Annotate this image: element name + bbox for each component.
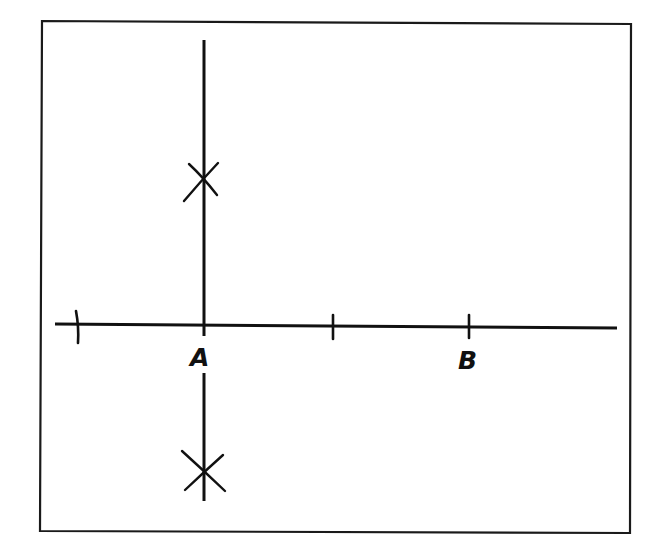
point-b-label: B [458, 346, 477, 375]
horizontal-line [55, 324, 617, 328]
diagram-frame [40, 21, 631, 533]
left-tick-mark [76, 311, 78, 343]
point-a-label: A [188, 343, 209, 372]
upper-arc-stroke-2 [184, 163, 218, 201]
perpendicular-construction-diagram: A B [0, 0, 655, 552]
upper-arc-intersection-mark [184, 163, 218, 201]
